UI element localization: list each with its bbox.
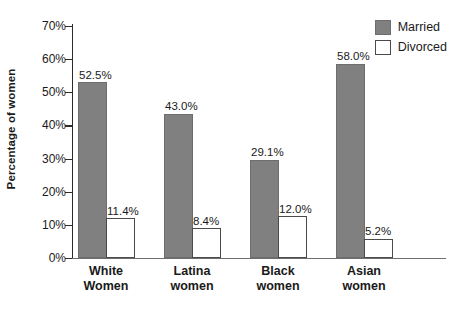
bar-married[interactable] [164,114,193,259]
y-axis-tick-labels: 0%10%20%30%40%50%60%70% [22,26,66,258]
bar-divorced[interactable] [106,218,135,258]
bar-group: 43.0%8.4% [164,26,220,258]
y-axis-tick-label: 50% [24,86,66,98]
x-axis-category-label: Asian women [309,264,419,295]
y-axis-tick-label: 60% [24,53,66,65]
y-axis-title-text: Percentage of women [5,69,17,190]
x-axis-line [72,258,446,259]
y-axis-tick-label: 70% [24,20,66,32]
legend-item-divorced[interactable]: Divorced [375,40,447,55]
legend-label-married: Married [398,21,440,34]
y-axis-tick-label: 40% [24,119,66,131]
legend-swatch-married [375,20,391,35]
y-axis-tick [65,26,72,27]
bar-value-label: 43.0% [165,101,198,113]
bar-value-label: 11.4% [107,206,139,218]
bar-married[interactable] [250,160,279,258]
y-axis-title: Percentage of women [0,0,22,258]
bar-value-label: 29.1% [251,147,284,159]
y-axis-tick [65,225,72,226]
legend-item-married[interactable]: Married [375,20,447,35]
bar-divorced[interactable] [192,228,221,258]
bar-value-label: 58.0% [337,51,370,63]
y-axis-tick-label: 10% [24,219,66,231]
chart-legend: Married Divorced [375,20,447,55]
bar-value-label: 8.4% [193,216,219,228]
bar-value-label: 52.5% [79,70,112,82]
y-axis-tick [65,192,72,193]
y-axis-tick [65,125,72,126]
legend-swatch-divorced [375,40,391,55]
bar-divorced[interactable] [364,239,393,258]
bar-group: 29.1%12.0% [250,26,306,258]
bar-married[interactable] [336,64,365,258]
bar-group: 58.0%5.2% [336,26,392,258]
bar-divorced[interactable] [278,216,307,258]
y-axis-tick [65,92,72,93]
bar-value-label: 5.2% [365,226,391,238]
bar-value-label: 12.0% [279,204,312,216]
bar-married[interactable] [78,82,107,258]
y-axis-tick [65,258,72,259]
y-axis-tick [65,159,72,160]
y-axis-tick-label: 0% [24,252,66,264]
plot-area: 52.5%11.4%43.0%8.4%29.1%12.0%58.0%5.2% [72,26,444,258]
bar-group: 52.5%11.4% [78,26,134,258]
legend-label-divorced: Divorced [398,41,447,54]
y-axis-tick [65,59,72,60]
y-axis-tick-label: 20% [24,186,66,198]
y-axis-tick-label: 30% [24,153,66,165]
